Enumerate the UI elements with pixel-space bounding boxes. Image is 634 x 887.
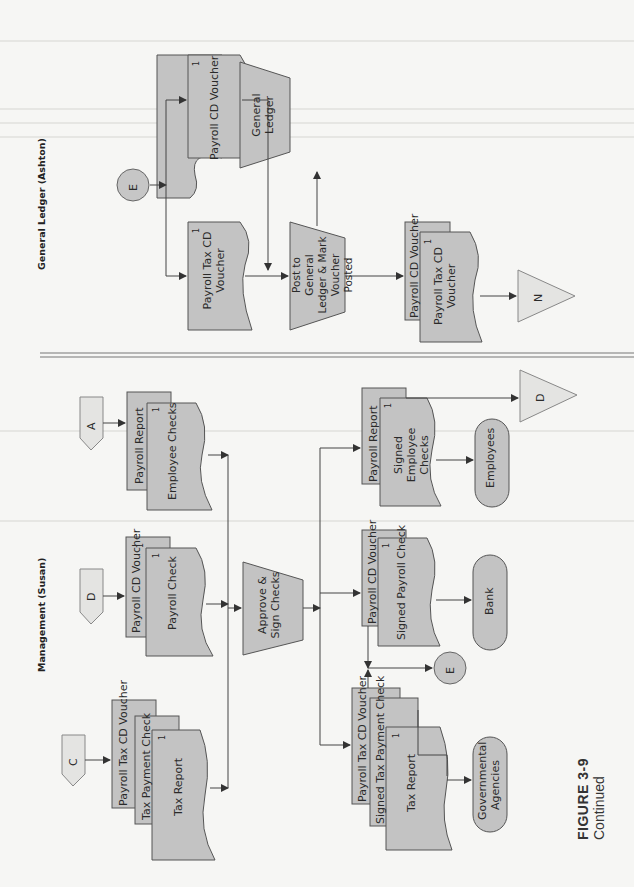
terminal-gov-label: Governmental Agencies (476, 750, 502, 820)
mgmt-in-payroll-check-label: Payroll Check (166, 556, 179, 630)
gl-connector-e-label: E (127, 184, 140, 191)
gl-doc-payroll-tax-cd-voucher-copy: 1 (190, 228, 203, 233)
mgmt-in-payroll-cd-voucher-copy: 1 (134, 543, 147, 548)
gl-out-copy-1: 1 (422, 239, 435, 244)
mgmt-out-signed-payroll-check-copy: 1 (380, 543, 393, 548)
mgmt-in-employee-checks-label: Employee Checks (166, 402, 179, 500)
gl-out-payroll-tax-cd-voucher-label: Payroll Tax CD Voucher (432, 237, 458, 335)
gl-doc-payroll-tax-cd-voucher-label: Payroll Tax CD Voucher (201, 223, 227, 318)
mgmt-connector-e-label: E (444, 667, 457, 674)
terminal-bank-label: Bank (483, 587, 496, 615)
gl-doc-payroll-cd-voucher-copy: 1 (190, 61, 203, 66)
mgmt-offpage-c-label: C (67, 758, 80, 766)
gl-out-payroll-cd-voucher-label: Payroll CD Voucher (408, 214, 421, 318)
mgmt-out-tax-report-label: Tax Report (405, 754, 418, 812)
mgmt-in-payroll-report-label: Payroll Report (133, 408, 146, 484)
gl-offpage-n-label: N (532, 294, 545, 302)
in-employee-checks (147, 403, 212, 510)
mgmt-out-signed-employee-checks-copy: 1 (382, 403, 395, 408)
mgmt-in-tax-payment-check-label: Tax Payment Check (140, 713, 153, 820)
mgmt-out-payroll-cd-voucher-label: Payroll CD Voucher (366, 520, 379, 624)
out-tax-report (386, 727, 452, 850)
offpage-d-out (520, 370, 577, 422)
mgmt-out-signed-employee-checks-label: Signed Employee Checks (392, 410, 431, 500)
mgmt-out-payroll-tax-cd-voucher-label: Payroll Tax CD Voucher (356, 676, 369, 802)
mgmt-offpage-d-out-label: D (534, 394, 547, 402)
gl-doc-payroll-cd-voucher-label: Payroll CD Voucher (208, 56, 221, 160)
gl-process-post-label: Post to General Ledger & Mark Voucher Po… (290, 235, 355, 315)
mgmt-out-payroll-report-label: Payroll Report (367, 406, 380, 482)
mgmt-out-signed-tax-payment-check-label: Signed Tax Payment Check (374, 676, 387, 824)
mgmt-offpage-d-label: D (85, 593, 98, 601)
offpage-n (518, 270, 575, 322)
figure-continued: Continued (591, 758, 607, 840)
figure-number: FIGURE 3-9 (575, 758, 591, 840)
lane-title-management: Management (Susan) (36, 558, 47, 672)
gl-file-general-ledger-label: General Ledger (250, 85, 276, 145)
lane-title-general-ledger: General Ledger (Ashton) (36, 138, 47, 270)
terminal-employees-label: Employees (484, 428, 497, 488)
mgmt-out-signed-payroll-check-label: Signed Payroll Check (395, 525, 408, 640)
mgmt-in-employee-checks-copy: 1 (150, 407, 163, 412)
mgmt-in-payroll-check-copy: 1 (150, 553, 163, 558)
out-signed-payroll-check (378, 538, 440, 646)
mgmt-in-payroll-tax-cd-voucher-label: Payroll Tax CD Voucher (117, 680, 130, 806)
flowchart-canvas (0, 0, 634, 887)
mgmt-process-approve-label: Approve & Sign Checks (256, 570, 282, 640)
mgmt-offpage-a-label: A (85, 422, 98, 430)
mgmt-out-tax-report-copy: 1 (390, 733, 403, 738)
figure-caption: FIGURE 3-9 Continued (575, 758, 607, 840)
in-payroll-check (146, 548, 213, 656)
mgmt-in-tax-report-label: Tax Report (172, 758, 185, 816)
mgmt-in-tax-report-copy: 1 (156, 735, 169, 740)
